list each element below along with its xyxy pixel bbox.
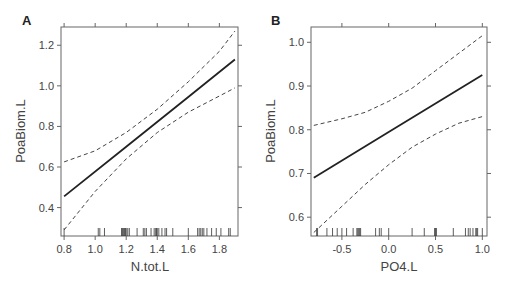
x-tick-label: 1.0 [475, 243, 490, 255]
panel-a-label: A [22, 13, 32, 28]
x-tick-label: 1.2 [119, 243, 134, 255]
panel-a-frame [61, 27, 238, 236]
fit-line [314, 75, 483, 178]
panel-b: B -0.50.00.51.00.60.70.80.91.0 PO4.L Poa… [263, 13, 491, 274]
y-tick-label: 1.0 [289, 36, 304, 48]
panel-b-x-axis-title: PO4.L [381, 259, 418, 274]
x-tick-label: -0.5 [332, 243, 351, 255]
confidence-band-line [314, 117, 483, 233]
x-tick-label: 1.0 [88, 243, 103, 255]
confidence-band-line [64, 88, 235, 230]
y-tick-label: 0.6 [289, 211, 304, 223]
x-tick-label: 1.4 [150, 243, 165, 255]
confidence-band-line [314, 36, 483, 126]
panel-a-x-axis-title: N.tot.L [131, 259, 169, 274]
chart-figure: A 0.81.01.21.41.61.80.40.60.81.01.2 N.to… [0, 0, 508, 287]
panel-b-y-axis-title: PoaBiom.L [263, 99, 278, 163]
panel-a-ticks: 0.81.01.21.41.61.80.40.60.81.01.2 [39, 23, 242, 255]
panel-a-curves [64, 31, 235, 230]
x-tick-label: 1.6 [181, 243, 196, 255]
panel-b-rug [317, 228, 483, 236]
y-tick-label: 0.9 [289, 80, 304, 92]
y-tick-label: 0.6 [39, 161, 54, 173]
panel-b-frame [311, 27, 487, 236]
y-tick-label: 0.8 [39, 120, 54, 132]
panel-a-y-axis-title: PoaBiom.L [13, 99, 28, 163]
panel-a-rug [64, 228, 230, 236]
x-tick-label: 1.8 [212, 243, 227, 255]
panel-b-label: B [271, 13, 280, 28]
panel-b-ticks: -0.50.00.51.00.60.70.80.91.0 [289, 23, 491, 255]
fit-line [64, 60, 235, 197]
panel-a: A 0.81.01.21.41.61.80.40.60.81.01.2 N.to… [13, 13, 242, 274]
x-tick-label: 0.8 [56, 243, 71, 255]
panel-b-curves [314, 36, 483, 233]
y-tick-label: 0.4 [39, 202, 54, 214]
y-tick-label: 1.0 [39, 80, 54, 92]
y-tick-label: 0.7 [289, 167, 304, 179]
y-tick-label: 1.2 [39, 39, 54, 51]
x-tick-label: 0.5 [428, 243, 443, 255]
confidence-band-line [64, 31, 235, 162]
y-tick-label: 0.8 [289, 124, 304, 136]
x-tick-label: 0.0 [381, 243, 396, 255]
